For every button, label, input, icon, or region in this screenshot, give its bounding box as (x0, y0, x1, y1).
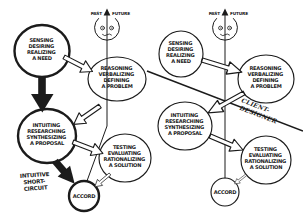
timeline-up-arrowhead-left (104, 9, 111, 16)
timeline-up-arrowhead-right (222, 9, 229, 16)
left-diagram: PAST FUTURE SENSING DESIRING (15, 9, 152, 212)
accord-text-right: ACCORD (214, 189, 236, 195)
accord-text-left: ACCORD (73, 193, 95, 199)
svg-text:INTUITIVE SHORT-: INTUITIVE SHORT- CIRCUIT (20, 171, 52, 192)
intuitive-short-circuit-label: INTUITIVE SHORT- CIRCUIT (20, 171, 52, 192)
past-label-right: PAST (209, 11, 221, 16)
problem-text-left: REASONING VERBALIZING DEFINING A PROBLEM (98, 65, 135, 90)
proposal-text-left: INTUITING RESEARCHING SYNTHESIZING A PRO… (27, 122, 68, 147)
right-diagram: PAST FUTURE CLIENT- DESIGNER SENSING D (147, 9, 303, 207)
past-label-left: PAST (91, 11, 103, 16)
arrow-proposal-to-solution-right (207, 130, 245, 156)
future-label-right: FUTURE (230, 11, 248, 16)
proposal-text-right: INTUITING RESEARCHING SYNTHESIZING A PRO… (165, 112, 206, 137)
arrow-need-to-problem-right (200, 54, 244, 78)
diagram-canvas: PAST FUTURE SENSING DESIRING (0, 0, 303, 217)
future-label-left: FUTURE (112, 11, 130, 16)
problem-text-right: REASONING VERBALIZING DEFINING A PROBLEM (247, 65, 284, 90)
shortcut-arrow-need-to-proposal (31, 77, 54, 113)
arrow-problem-to-proposal-left (70, 101, 104, 130)
arrow-solution-to-accord-left (92, 171, 112, 190)
design-process-diagram: PAST FUTURE SENSING DESIRING (0, 0, 303, 217)
